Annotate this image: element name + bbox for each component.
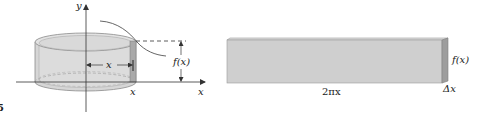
slab-width-label: 2πx bbox=[322, 86, 341, 97]
slab-height-label: f(x) bbox=[451, 54, 469, 65]
slab-front-face bbox=[227, 40, 442, 83]
strip-position-label: x bbox=[130, 86, 136, 97]
right-panel: 2πx f(x) Δx bbox=[227, 38, 469, 97]
radius-label: x bbox=[106, 59, 112, 70]
slab-side-face bbox=[442, 38, 448, 83]
height-label: f(x) bbox=[172, 56, 190, 67]
y-axis-label: y bbox=[75, 0, 82, 11]
figure-number: 5 bbox=[0, 102, 4, 113]
cylindrical-shell-diagram: y x x f(x) x 5 2πx f(x) Δx bbox=[0, 0, 486, 116]
left-panel: y x x f(x) x 5 bbox=[0, 0, 205, 113]
x-axis-label: x bbox=[198, 86, 204, 97]
slab-thickness-label: Δx bbox=[442, 83, 456, 94]
